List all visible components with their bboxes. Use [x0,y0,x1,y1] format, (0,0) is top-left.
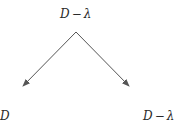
left-node-var: D [0,109,10,123]
top-node-var: D [60,7,70,21]
top-node-label: D−λ [60,8,91,20]
left-node-label: D [0,110,10,122]
right-node-sym: λ [167,109,175,123]
top-node-sym: λ [84,7,92,21]
edge-right-arrow [76,32,129,86]
right-node-var: D [143,109,153,123]
right-node-label: D−λ [143,110,174,122]
right-node-op: − [153,109,167,123]
edge-left-arrow [23,32,76,86]
top-node-op: − [70,7,84,21]
